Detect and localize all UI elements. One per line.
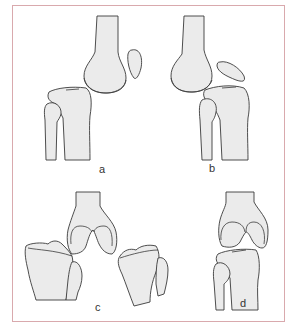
- panel-label-a: a: [99, 164, 105, 175]
- panel-b-drawing: [171, 16, 249, 160]
- panel-c-drawing: [25, 192, 168, 306]
- panel-label-b: b: [209, 163, 215, 174]
- panel-a-drawing: [44, 16, 141, 160]
- panel-label-c: c: [95, 302, 101, 313]
- panel-d-drawing: [213, 192, 268, 310]
- panel-label-d: d: [240, 298, 246, 309]
- knee-illustration: [0, 0, 291, 329]
